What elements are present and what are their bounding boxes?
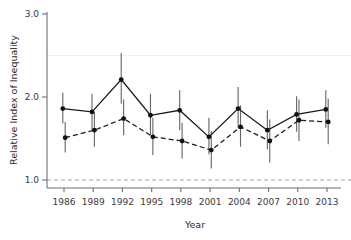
x-tick-label: 2013 xyxy=(316,197,339,207)
data-point xyxy=(92,128,97,133)
x-tick-label: 2001 xyxy=(199,197,222,207)
x-tick-label: 2010 xyxy=(286,197,309,207)
x-tick-label: 1998 xyxy=(169,197,192,207)
data-line-solid xyxy=(63,80,326,137)
data-point xyxy=(119,77,124,82)
data-point xyxy=(326,120,331,125)
x-tick-label: 1989 xyxy=(82,197,105,207)
y-axis-tick-labels: 1.02.03.0 xyxy=(25,9,40,185)
data-point xyxy=(207,134,212,139)
data-point xyxy=(238,124,243,129)
x-axis-title: Year xyxy=(184,219,205,230)
y-axis-ticks xyxy=(42,14,47,180)
y-axis-title: Relative Index of Inequality xyxy=(8,35,19,165)
data-point xyxy=(148,113,153,118)
x-axis-tick-labels: 1986198919921995199820012004200720102013 xyxy=(53,197,339,207)
y-tick-label: 1.0 xyxy=(25,175,40,185)
chart-figure: 1.02.03.0 198619891992199519982001200420… xyxy=(0,0,351,240)
data-point xyxy=(294,112,299,117)
data-markers-dashed xyxy=(63,116,331,152)
error-bars-series-dashed xyxy=(65,99,328,169)
x-tick-label: 1992 xyxy=(111,197,134,207)
data-line-dashed xyxy=(65,119,328,151)
data-point xyxy=(121,116,126,121)
data-point xyxy=(60,106,65,111)
data-point xyxy=(177,108,182,113)
error-bars-series-solid xyxy=(63,53,326,154)
data-point xyxy=(323,107,328,112)
data-point xyxy=(209,148,214,153)
x-axis-ticks xyxy=(64,188,327,192)
data-point xyxy=(265,128,270,133)
data-markers-solid xyxy=(60,77,328,139)
data-point xyxy=(236,106,241,111)
data-point xyxy=(297,118,302,123)
x-tick-label: 2007 xyxy=(257,197,280,207)
x-tick-label: 1986 xyxy=(53,197,76,207)
data-point xyxy=(90,110,95,115)
y-tick-label: 3.0 xyxy=(25,9,40,19)
relative-index-of-inequality-line-chart: 1.02.03.0 198619891992199519982001200420… xyxy=(0,0,351,240)
y-tick-label: 2.0 xyxy=(25,92,40,102)
data-point xyxy=(63,135,68,140)
data-point xyxy=(180,139,185,144)
x-tick-label: 2004 xyxy=(228,197,251,207)
data-point xyxy=(150,134,155,139)
data-point xyxy=(267,139,272,144)
x-tick-label: 1995 xyxy=(140,197,163,207)
